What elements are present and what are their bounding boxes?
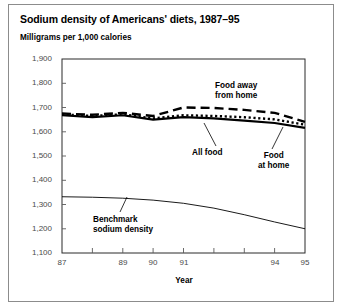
annotation-benchmark-sodium-density: Benchmark sodium density — [93, 215, 153, 235]
chart-figure: Sodium density of Americans' diets, 1987… — [0, 0, 342, 307]
y-tick-label-1700: 1,700 — [18, 103, 52, 112]
y-tick-label-1400: 1,400 — [18, 175, 52, 184]
x-tick-label-94: 94 — [265, 258, 285, 267]
x-tick-label-90: 90 — [143, 258, 163, 267]
series-line-food-at-home — [62, 115, 305, 128]
plot-area: 1,900 1,800 1,700 1,600 1,500 1,400 1,30… — [0, 0, 342, 307]
y-tick-label-1800: 1,800 — [18, 78, 52, 87]
annotation-food-at-home-line1: Food — [258, 151, 289, 161]
y-tick-label-1900: 1,900 — [18, 54, 52, 63]
y-tick-label-1500: 1,500 — [18, 151, 52, 160]
annotation-food-at-home-line2: at home — [258, 161, 289, 171]
x-tick-label-89: 89 — [113, 258, 133, 267]
annotation-food-away-from-home: Food away from home — [215, 81, 257, 101]
x-axis-title: Year — [154, 276, 214, 285]
annotation-benchmark-line1: Benchmark — [93, 215, 153, 225]
annotation-food-away-line1: Food away — [215, 81, 257, 91]
annotation-food-at-home: Food at home — [258, 151, 289, 171]
x-tick-label-91: 91 — [174, 258, 194, 267]
y-tick-label-1100: 1,100 — [18, 248, 52, 257]
y-tick-label-1600: 1,600 — [18, 127, 52, 136]
x-tick-label-95: 95 — [295, 258, 315, 267]
annotation-all-food: All food — [192, 148, 222, 158]
y-tick-label-1200: 1,200 — [18, 224, 52, 233]
x-tick-label-87: 87 — [52, 258, 72, 267]
annotation-benchmark-line2: sodium density — [93, 225, 153, 235]
y-tick-label-1300: 1,300 — [18, 200, 52, 209]
y-tick-marks — [62, 83, 66, 229]
annotation-food-away-line2: from home — [215, 91, 257, 101]
x-tick-marks — [92, 248, 274, 253]
